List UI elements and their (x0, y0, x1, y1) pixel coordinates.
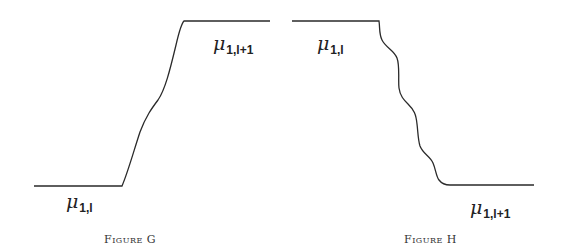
figure-h-label-low: μ1,l+1 (470, 196, 510, 221)
figure-h-caption: Figure H (404, 233, 457, 246)
mu-symbol: μ (66, 190, 78, 212)
mu-symbol: μ (470, 196, 482, 218)
figure-g-label-high: μ1,l+1 (213, 32, 253, 57)
mu-symbol: μ (213, 32, 225, 54)
subscript: 1,l (330, 43, 343, 57)
mu-symbol: μ (317, 32, 329, 54)
subscript: 1,l+1 (483, 207, 510, 221)
subscript: 1,l (79, 201, 92, 215)
figure-h-label-high: μ1,l (317, 32, 344, 57)
figure-g-label-low: μ1,l (66, 190, 93, 215)
subscript: 1,l+1 (226, 43, 253, 57)
figure-g-caption: Figure G (104, 233, 156, 246)
